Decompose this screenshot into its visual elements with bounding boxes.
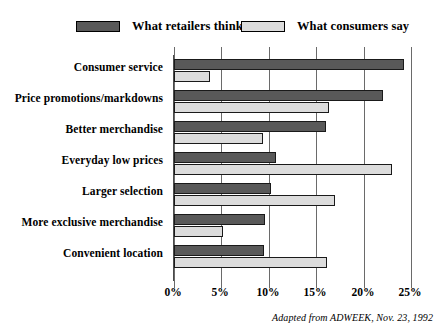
x-axis-tick-labels: 0% 5% 10% 15% 20% 25% [173, 286, 411, 302]
legend-swatch-retailers-icon [76, 21, 120, 32]
plot-area [173, 55, 412, 281]
category-label-larger-selection: Larger selection [82, 179, 163, 203]
x-tick-label-20: 20% [352, 286, 375, 298]
category-label-everyday-low-prices: Everyday low prices [61, 148, 163, 172]
bar-consumers-larger-selection [174, 195, 335, 206]
bar-group-larger-selection [174, 179, 412, 203]
bar-chart-figure: What retailers think What consumers say … [0, 0, 439, 328]
bar-retailers-price-promotions [174, 90, 383, 101]
x-tick-label-25: 25% [399, 286, 422, 298]
bar-retailers-everyday-low-prices [174, 152, 276, 163]
bar-group-everyday-low-prices [174, 148, 412, 172]
source-caption: Adapted from ADWEEK, Nov. 23, 1992 [272, 312, 433, 323]
legend-swatch-consumers-icon [241, 21, 285, 32]
bar-consumers-consumer-service [174, 71, 210, 82]
bar-retailers-convenient-location [174, 245, 264, 256]
legend-entry-retailers: What retailers think [76, 17, 243, 35]
category-label-more-exclusive-merchandise: More exclusive merchandise [22, 210, 163, 234]
legend-entry-consumers: What consumers say [241, 17, 409, 35]
bar-retailers-larger-selection [174, 183, 271, 194]
bar-consumers-convenient-location [174, 257, 327, 268]
bar-consumers-price-promotions [174, 102, 329, 113]
bar-retailers-consumer-service [174, 59, 404, 70]
bar-retailers-more-exclusive-merchandise [174, 214, 265, 225]
bar-consumers-better-merchandise [174, 133, 263, 144]
bar-group-consumer-service [174, 55, 412, 79]
x-tick-label-10: 10% [257, 286, 280, 298]
x-tick-label-0: 0% [164, 286, 181, 298]
bar-consumers-more-exclusive-merchandise [174, 226, 223, 237]
category-label-better-merchandise: Better merchandise [65, 117, 163, 141]
bar-group-price-promotions [174, 86, 412, 110]
x-tick-label-5: 5% [211, 286, 228, 298]
category-label-convenient-location: Convenient location [63, 241, 163, 265]
category-label-consumer-service: Consumer service [74, 55, 163, 79]
y-axis-category-labels: Consumer service Price promotions/markdo… [0, 55, 168, 281]
bar-group-better-merchandise [174, 117, 412, 141]
bar-consumers-everyday-low-prices [174, 164, 392, 175]
bar-group-convenient-location [174, 241, 412, 265]
bar-group-more-exclusive-merchandise [174, 210, 412, 234]
legend-label-consumers: What consumers say [297, 19, 409, 34]
x-tick-label-15: 15% [304, 286, 327, 298]
chart-legend: What retailers think What consumers say [0, 17, 439, 39]
bar-retailers-better-merchandise [174, 121, 326, 132]
legend-label-retailers: What retailers think [132, 19, 243, 34]
category-label-price-promotions: Price promotions/markdowns [15, 86, 163, 110]
